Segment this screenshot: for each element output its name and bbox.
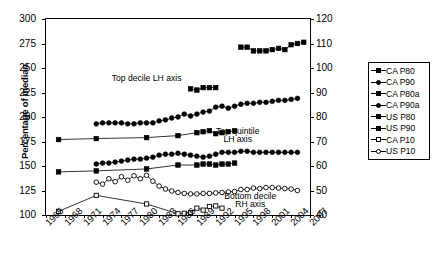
y-tick-right — [311, 142, 314, 143]
legend-item-ca-p90a[interactable]: CA P90a — [371, 100, 428, 112]
legend-label: US P90 — [386, 123, 415, 133]
y-tick-label-right: 80 — [316, 111, 327, 122]
legend-item-ca-p80[interactable]: CA P80 — [371, 65, 428, 77]
legend[interactable]: CA P80CA P90CA P80aCA P90aUS P80US P90CA… — [368, 62, 430, 160]
y-tick-label-left: 250 — [0, 62, 36, 73]
legend-marker-icon — [371, 100, 386, 110]
y-tick-left — [42, 191, 45, 192]
annotation-layer: Top decile LH axisTop quintileLH axisBot… — [46, 19, 310, 215]
y-tick-right — [311, 93, 314, 94]
legend-item-us-p10[interactable]: US P10 — [371, 146, 428, 158]
legend-item-ca-p80a[interactable]: CA P80a — [371, 88, 428, 100]
plot-annotation-2: LH axis — [223, 134, 252, 144]
y-tick-left — [42, 215, 45, 216]
y-tick-label-left: 100 — [0, 209, 36, 220]
legend-item-us-p90[interactable]: US P90 — [371, 123, 428, 135]
y-tick-left — [42, 93, 45, 94]
legend-marker-icon — [371, 146, 386, 156]
legend-marker-icon — [371, 123, 386, 133]
legend-label: CA P90a — [386, 100, 420, 110]
plot-annotation-0: Top decile LH axis — [112, 73, 182, 83]
y-tick-label-left: 125 — [0, 185, 36, 196]
y-tick-label-right: 100 — [316, 62, 333, 73]
y-tick-left — [42, 117, 45, 118]
y-tick-label-right: 120 — [316, 13, 333, 24]
y-tick-left — [42, 68, 45, 69]
legend-label: CA P80 — [386, 66, 415, 76]
y-tick-right — [311, 117, 314, 118]
y-tick-right — [311, 68, 314, 69]
y-tick-label-right: 110 — [316, 38, 332, 49]
legend-item-ca-p10[interactable]: CA P10 — [371, 134, 428, 146]
y-tick-left — [42, 142, 45, 143]
legend-label: CA P80a — [386, 89, 420, 99]
y-tick-left — [42, 44, 45, 45]
y-tick-label-right: 70 — [316, 136, 327, 147]
y-tick-right — [311, 191, 314, 192]
legend-marker-icon — [371, 89, 386, 99]
legend-label: US P10 — [386, 146, 415, 156]
legend-marker-icon — [371, 66, 386, 76]
legend-label: US P80 — [386, 112, 415, 122]
chart-figure: Percentage of median Percentage of media… — [0, 0, 433, 268]
legend-marker-icon — [371, 77, 386, 87]
y-tick-label-right: 90 — [316, 87, 327, 98]
legend-label: CA P90 — [386, 77, 415, 87]
legend-item-us-p80[interactable]: US P80 — [371, 111, 428, 123]
legend-item-ca-p90[interactable]: CA P90 — [371, 77, 428, 89]
legend-marker-icon — [371, 135, 386, 145]
y-tick-label-left: 200 — [0, 111, 36, 122]
plot-area: Top decile LH axisTop quintileLH axisBot… — [45, 18, 311, 216]
y-tick-label-right: 50 — [316, 185, 327, 196]
y-tick-left — [42, 19, 45, 20]
y-tick-right — [311, 166, 314, 167]
y-tick-label-right: 60 — [316, 160, 327, 171]
y-tick-label-left: 300 — [0, 13, 36, 24]
y-tick-label-left: 150 — [0, 160, 36, 171]
y-tick-right — [311, 44, 314, 45]
y-tick-label-left: 225 — [0, 87, 36, 98]
y-tick-right — [311, 19, 314, 20]
legend-label: CA P10 — [386, 135, 415, 145]
y-tick-left — [42, 166, 45, 167]
legend-marker-icon — [371, 112, 386, 122]
y-tick-label-left: 275 — [0, 38, 36, 49]
y-tick-label-left: 175 — [0, 136, 36, 147]
